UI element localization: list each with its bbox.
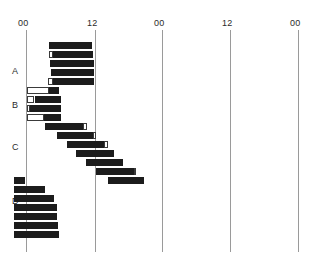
activity-bar	[53, 51, 93, 58]
activity-bar	[14, 204, 57, 211]
activity-bar	[30, 105, 61, 112]
activity-bar	[104, 141, 107, 148]
actogram-chart: 0012001200 ABCD	[0, 0, 315, 261]
activity-bar	[49, 87, 59, 94]
axis-tick-label-48h: 00	[290, 18, 301, 28]
activity-bar	[76, 150, 115, 157]
axis-line-3	[230, 30, 231, 252]
activity-bar	[57, 132, 93, 139]
activity-bar	[67, 141, 104, 148]
row-group-label-a: A	[12, 66, 18, 76]
activity-bar	[35, 96, 61, 103]
row-group-label-b: B	[12, 100, 18, 110]
axis-tick-label-12h: 12	[87, 18, 98, 28]
activity-bar	[14, 186, 46, 193]
activity-bar	[51, 69, 94, 76]
activity-bar	[14, 195, 55, 202]
axis-tick-label-0h: 00	[18, 18, 29, 28]
activity-bar	[108, 177, 144, 184]
activity-bar	[83, 123, 86, 130]
activity-bar	[86, 159, 123, 166]
activity-bar	[14, 231, 59, 238]
activity-bar	[14, 213, 57, 220]
activity-bar	[27, 96, 34, 103]
activity-bar	[45, 123, 84, 130]
activity-bar	[49, 42, 92, 49]
activity-bar	[50, 60, 94, 67]
axis-tick-label-24h: 00	[154, 18, 165, 28]
axis-line-2	[162, 30, 163, 252]
activity-bar	[27, 114, 44, 121]
activity-bar	[93, 132, 96, 139]
activity-bar	[96, 168, 133, 175]
activity-bar	[44, 114, 60, 121]
row-group-label-c: C	[12, 142, 19, 152]
activity-bar	[53, 78, 94, 85]
activity-bar	[27, 87, 49, 94]
activity-bar	[14, 177, 25, 184]
activity-bar	[14, 222, 58, 229]
axis-line-4	[298, 30, 299, 252]
activity-bar	[134, 168, 137, 175]
axis-tick-label-36h: 12	[222, 18, 233, 28]
